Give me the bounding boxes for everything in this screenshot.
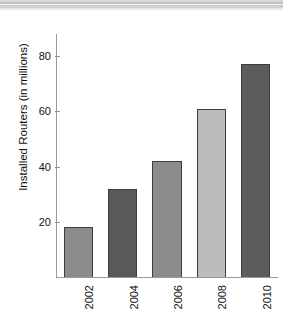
page-top-decorative-rules xyxy=(0,0,283,12)
x-axis-tick-label: 2006 xyxy=(172,285,184,309)
plot-area: 20406080 20022004200620082010 xyxy=(56,34,278,277)
rule-band-5 xyxy=(0,8,283,10)
y-axis-title: Installed Routers (in millions) xyxy=(17,17,29,217)
x-axis-tick-label: 2010 xyxy=(261,285,273,309)
y-axis-tick xyxy=(55,167,60,168)
x-axis-tick-label: 2008 xyxy=(216,285,228,309)
y-axis-tick-label: 40 xyxy=(39,161,51,173)
y-axis-tick xyxy=(55,56,60,57)
y-axis-line xyxy=(56,34,57,277)
bar xyxy=(108,189,137,277)
y-axis-tick-label: 20 xyxy=(39,216,51,228)
x-axis-tick-label: 2004 xyxy=(128,285,140,309)
y-axis-tick-label: 80 xyxy=(39,50,51,62)
bar-chart-figure: Installed Routers (in millions) 20406080… xyxy=(0,12,283,323)
bar xyxy=(241,64,270,277)
x-axis-tick-label: 2002 xyxy=(83,285,95,309)
y-axis-tick xyxy=(55,111,60,112)
x-axis-line xyxy=(56,277,278,278)
y-axis-tick xyxy=(55,222,60,223)
bar xyxy=(197,109,226,277)
bar xyxy=(64,227,93,277)
bar xyxy=(152,161,181,277)
y-axis-tick-label: 60 xyxy=(39,105,51,117)
